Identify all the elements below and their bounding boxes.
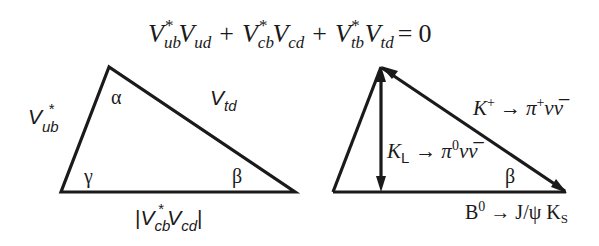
label-vcb-vcd: |Vcb*Vcd|: [135, 200, 203, 234]
angle-gamma: γ: [83, 165, 93, 188]
eq-plus-2: +: [312, 19, 327, 48]
eq-term1-sub2: ud: [194, 33, 212, 52]
svg-text:Vub*Vud+Vcb*Vcd+Vtb*Vtd=0: Vub*Vud+Vcb*Vcd+Vtb*Vtd=0: [148, 16, 431, 52]
right-unitarity-triangle: K+→π+νν̅ KL→π0νν̅ β B0→J/ψKS: [333, 66, 570, 226]
eq-term3-sub: tb: [351, 33, 364, 52]
eq-term2-star: *: [259, 16, 268, 35]
unitarity-equation: Vub*Vud+Vcb*Vcd+Vtb*Vtd=0: [148, 16, 431, 52]
eq-term1-star: *: [165, 16, 174, 35]
label-vub-star: Vub*: [28, 100, 59, 135]
angle-beta-right: β: [505, 165, 515, 188]
eq-equals: =: [398, 19, 413, 48]
eq-term3-sub2: td: [381, 33, 395, 52]
right-triangle-left-edge: [333, 67, 381, 192]
left-triangle-shape: [61, 67, 295, 192]
label-kplus-decay: K+→π+νν̅: [472, 95, 570, 120]
label-kl-decay: KL→π0νν̅: [386, 138, 485, 166]
label-vtd: Vtd: [210, 86, 237, 114]
eq-plus-1: +: [219, 19, 234, 48]
hypotenuse-arrow: [382, 68, 565, 191]
eq-term3-star: *: [351, 16, 360, 35]
unitarity-triangle-diagram: Vub*Vud+Vcb*Vcd+Vtb*Vtd=0 Vub* Vtd |Vcb*…: [0, 0, 599, 246]
height-arrowhead-bottom: [376, 176, 386, 192]
eq-term2-sub2: cd: [288, 33, 305, 52]
label-b0-decay: B0→J/ψKS: [465, 199, 568, 226]
left-unitarity-triangle: Vub* Vtd |Vcb*Vcd| α γ β: [28, 67, 295, 234]
angle-beta-left: β: [232, 165, 242, 188]
angle-alpha: α: [111, 86, 122, 108]
eq-rhs: 0: [418, 19, 431, 48]
